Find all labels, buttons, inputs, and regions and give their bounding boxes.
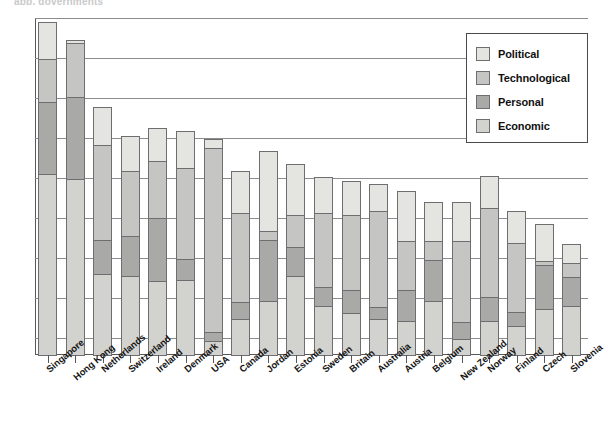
bar-denmark[interactable] [176, 131, 195, 355]
bar-segment-political[interactable] [535, 224, 554, 262]
bar-segment-personal[interactable] [342, 290, 361, 314]
bar-segment-technological[interactable] [38, 59, 57, 103]
bar-segment-economic[interactable] [286, 276, 305, 356]
bar-segment-political[interactable] [369, 184, 388, 212]
bar-segment-political[interactable] [562, 244, 581, 264]
bar-segment-personal[interactable] [38, 102, 57, 175]
bar-segment-personal[interactable] [231, 302, 250, 320]
legend: Political Technological Personal Economi… [466, 33, 588, 143]
bar-segment-technological[interactable] [369, 211, 388, 308]
legend-label-personal: Personal [498, 96, 544, 108]
bar-segment-political[interactable] [480, 176, 499, 209]
bar-jordan[interactable] [259, 151, 278, 355]
bar-segment-personal[interactable] [259, 240, 278, 302]
bar-ireland[interactable] [148, 128, 167, 355]
bar-norway[interactable] [480, 176, 499, 355]
legend-label-technological: Technological [498, 72, 570, 84]
bar-segment-personal[interactable] [66, 97, 85, 180]
cropped-caption-text: app, governments [14, 0, 103, 5]
bar-segment-personal[interactable] [314, 287, 333, 307]
bar-segment-political[interactable] [93, 107, 112, 146]
bar-austria[interactable] [397, 191, 416, 355]
legend-item[interactable]: Economic [476, 114, 587, 138]
bar-segment-political[interactable] [397, 191, 416, 242]
bar-belgium[interactable] [424, 202, 443, 355]
bar-segment-political[interactable] [452, 202, 471, 242]
bar-britain[interactable] [342, 181, 361, 355]
legend-swatch-political [476, 47, 490, 61]
bar-switzerland[interactable] [121, 136, 140, 355]
legend-swatch-technological [476, 71, 490, 85]
bar-segment-political[interactable] [314, 177, 333, 214]
bar-segment-political[interactable] [424, 202, 443, 242]
bar-segment-technological[interactable] [93, 145, 112, 241]
bar-segment-technological[interactable] [286, 215, 305, 248]
bar-segment-personal[interactable] [397, 290, 416, 322]
x-axis-tick [75, 355, 76, 363]
legend-item[interactable]: Technological [476, 66, 587, 90]
bar-segment-technological[interactable] [397, 241, 416, 291]
legend-label-political: Political [498, 48, 539, 60]
bar-segment-personal[interactable] [176, 259, 195, 281]
bar-slovenia[interactable] [562, 244, 581, 355]
bar-segment-personal[interactable] [424, 260, 443, 302]
bar-segment-personal[interactable] [148, 218, 167, 282]
bar-segment-political[interactable] [38, 22, 57, 60]
bar-segment-technological[interactable] [562, 263, 581, 278]
bar-segment-personal[interactable] [480, 297, 499, 322]
bar-segment-political[interactable] [148, 128, 167, 162]
bar-new-zealand[interactable] [452, 202, 471, 355]
bar-segment-political[interactable] [259, 151, 278, 232]
bar-segment-technological[interactable] [231, 213, 250, 303]
legend-swatch-personal [476, 95, 490, 109]
bar-segment-technological[interactable] [121, 171, 140, 237]
legend-item[interactable]: Political [476, 42, 587, 66]
bar-segment-political[interactable] [342, 181, 361, 216]
bar-segment-technological[interactable] [148, 161, 167, 219]
stacked-bar-chart: app, governments SingaporeHong KongNethe… [0, 0, 608, 441]
bar-estonia[interactable] [286, 164, 305, 355]
bar-singapore[interactable] [38, 22, 57, 355]
bar-segment-technological[interactable] [452, 241, 471, 323]
bar-segment-personal[interactable] [452, 322, 471, 340]
bar-segment-political[interactable] [507, 211, 526, 244]
bar-segment-personal[interactable] [562, 277, 581, 307]
bar-segment-technological[interactable] [342, 215, 361, 291]
bar-segment-technological[interactable] [176, 168, 195, 260]
bar-segment-personal[interactable] [286, 247, 305, 277]
bar-segment-economic[interactable] [66, 179, 85, 356]
bar-finland[interactable] [507, 211, 526, 355]
bar-segment-technological[interactable] [66, 43, 85, 98]
x-axis-tick [462, 355, 463, 363]
legend-label-economic: Economic [498, 120, 550, 132]
bar-segment-political[interactable] [286, 164, 305, 216]
bar-netherlands[interactable] [93, 107, 112, 355]
bar-segment-economic[interactable] [562, 306, 581, 356]
bar-segment-economic[interactable] [38, 174, 57, 356]
bar-canada[interactable] [231, 171, 250, 355]
bar-segment-economic[interactable] [176, 280, 195, 356]
bar-segment-technological[interactable] [480, 208, 499, 298]
bar-czech[interactable] [535, 224, 554, 355]
bar-segment-technological[interactable] [507, 243, 526, 313]
legend-swatch-economic [476, 119, 490, 133]
bar-segment-personal[interactable] [535, 265, 554, 310]
bar-usa[interactable] [204, 139, 223, 355]
bar-hong-kong[interactable] [66, 40, 85, 355]
bar-segment-political[interactable] [231, 171, 250, 214]
bar-segment-personal[interactable] [93, 240, 112, 275]
bar-segment-technological[interactable] [204, 148, 223, 333]
bar-segment-personal[interactable] [507, 312, 526, 327]
bar-australia[interactable] [369, 184, 388, 355]
bar-sweden[interactable] [314, 177, 333, 355]
bar-segment-political[interactable] [176, 131, 195, 169]
x-axis-category-labels: SingaporeHong KongNetherlandsSwitzerland… [35, 364, 608, 441]
legend-item[interactable]: Personal [476, 90, 587, 114]
bar-segment-political[interactable] [121, 136, 140, 172]
bar-segment-technological[interactable] [424, 241, 443, 261]
bar-segment-economic[interactable] [231, 319, 250, 356]
bar-segment-technological[interactable] [314, 213, 333, 288]
bar-segment-personal[interactable] [121, 236, 140, 277]
